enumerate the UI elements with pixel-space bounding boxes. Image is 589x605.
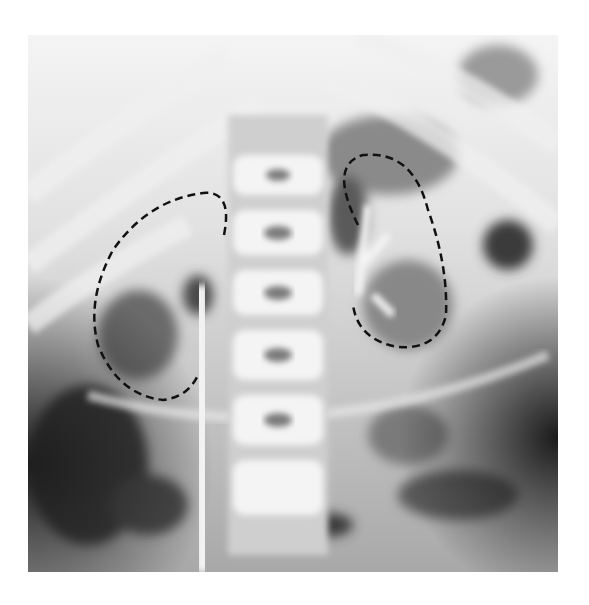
ureter-contrast [200,285,204,572]
radiograph-illustration [28,35,558,572]
xray-image [28,35,558,572]
lumbar-spine [228,115,328,555]
